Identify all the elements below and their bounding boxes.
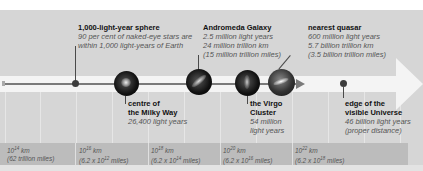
scale-label: 1016 km (6.2 x 1012 miles) <box>79 145 128 165</box>
scale-label: 1014 km (62 trillion miles) <box>7 145 54 164</box>
label-milky-way: centre of the Milky Way 26,400 light yea… <box>128 99 208 126</box>
edge-title: visible Universe <box>345 108 420 117</box>
scale-divider <box>148 143 149 165</box>
scale-label: 1018 km (6.2 x 1014 miles) <box>151 145 200 165</box>
label-quasar: nearest quasar 600 million light years 5… <box>308 23 418 59</box>
scale-divider <box>292 143 293 165</box>
label-sphere: 1,000-light-year sphere 90 per cent of n… <box>78 23 198 50</box>
scale-divider <box>220 143 221 165</box>
milky-way-line: 26,400 light years <box>128 117 208 126</box>
milky-way-title: centre of <box>128 99 208 108</box>
milky-way-title: the Milky Way <box>128 108 208 117</box>
virgo-cluster-icon <box>235 70 260 96</box>
quasar-title: nearest quasar <box>308 23 418 32</box>
leader-line <box>343 86 344 98</box>
virgo-title: Cluster <box>250 108 300 117</box>
edge-line: (proper distance) <box>345 126 420 135</box>
andromeda-line: 2.5 million light years <box>203 32 313 41</box>
sphere-line: within 1,000 light-years of Earth <box>78 41 198 50</box>
sphere-line: 90 per cent of naked-eye stars are <box>78 32 198 41</box>
scale-label: 1022 km (6.2 x 1018 miles) <box>295 145 344 165</box>
andromeda-title: Andromeda Galaxy <box>203 23 313 32</box>
label-virgo: the Virgo Cluster 54 million light years <box>250 99 300 135</box>
andromeda-line: (15 million trillion miles) <box>203 50 313 59</box>
virgo-line: 54 million <box>250 117 300 126</box>
scale-label: 1020 km (6.2 x 1016 miles) <box>223 145 272 165</box>
label-andromeda: Andromeda Galaxy 2.5 million light years… <box>203 23 313 59</box>
quasar-icon <box>268 69 295 96</box>
sphere-marker-dot <box>72 80 79 87</box>
andromeda-galaxy-icon <box>186 69 212 95</box>
scale-band <box>0 143 408 165</box>
leader-line <box>75 46 76 82</box>
bottom-strip <box>0 165 423 171</box>
virgo-title: the Virgo <box>250 99 300 108</box>
axis-arrow-icon <box>296 79 305 89</box>
leader-line <box>125 96 126 104</box>
label-edge: edge of the visible Universe 46 billion … <box>345 99 420 135</box>
sphere-title: 1,000-light-year sphere <box>78 23 198 32</box>
leader-line <box>247 96 248 104</box>
andromeda-line: 24 million trillion km <box>203 41 313 50</box>
scale-divider <box>75 143 76 165</box>
quasar-line: (3.5 billion trillion miles) <box>308 50 418 59</box>
edge-title: edge of the <box>345 99 420 108</box>
quasar-line: 600 million light years <box>308 32 418 41</box>
milky-way-icon <box>114 71 139 96</box>
quasar-line: 5.7 billion trillion km <box>308 41 418 50</box>
virgo-line: light years <box>250 126 300 135</box>
edge-line: 46 billion light years <box>345 117 420 126</box>
leader-line <box>198 55 199 70</box>
